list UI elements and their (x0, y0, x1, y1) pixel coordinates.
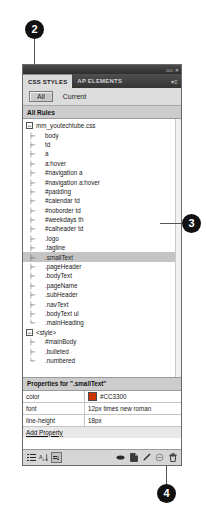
property-value[interactable]: #CC3300 (85, 392, 181, 401)
tree-branch-icon: ├─ (29, 197, 45, 204)
callout-leader-3 (160, 223, 183, 224)
property-value-text: 18px (88, 417, 102, 424)
rule-tree-item-label: .numbered (45, 357, 75, 364)
rules-tree-container[interactable]: −mm_youtechtube.css├─body├─td├─a├─a:hove… (23, 119, 181, 378)
rule-tree-item[interactable]: −<style> (23, 328, 181, 337)
tree-toggle-icon[interactable]: − (26, 122, 33, 129)
rule-tree-item-label: #noborder td (45, 207, 81, 214)
rule-tree-item-label: #weekdays th (45, 216, 84, 223)
rule-tree-item[interactable]: ├─.tagline (23, 243, 181, 252)
mode-current-button[interactable]: Current (55, 91, 94, 102)
panel-options-menu-icon[interactable]: ▾≡ (171, 74, 181, 88)
callout-marker-3: 3 (182, 214, 201, 233)
rule-tree-item-label: .pageName (45, 282, 78, 289)
rule-tree-item-label: .pageHeader (45, 263, 81, 270)
tree-branch-icon: ├─ (29, 179, 45, 186)
property-row[interactable]: color#CC3300 (23, 391, 181, 403)
delete-rule-icon[interactable] (168, 453, 177, 462)
callout-marker-4: 4 (157, 484, 176, 503)
rule-tree-item[interactable]: ├─.pageName (23, 281, 181, 290)
property-name[interactable]: line-height (23, 415, 85, 426)
panel-titlebar[interactable]: ▫▫ ✕ (23, 65, 181, 74)
property-name[interactable]: color (23, 391, 85, 402)
property-value[interactable]: 18px (85, 417, 181, 424)
tree-branch-icon: ├─ (29, 169, 45, 176)
rule-tree-item-label: .tagline (45, 244, 65, 251)
attach-style-sheet-icon[interactable] (116, 453, 125, 462)
rule-tree-item[interactable]: ├─a (23, 149, 181, 158)
tree-branch-icon: ├─ (29, 225, 45, 232)
add-property-link[interactable]: Add Property (23, 427, 181, 438)
alphabetical-view-icon[interactable]: A z (39, 453, 48, 462)
rule-tree-item[interactable]: ├─.subHeader (23, 290, 181, 299)
rule-tree-item[interactable]: ├─#noborder td (23, 206, 181, 215)
mode-all-button[interactable]: All (29, 91, 53, 102)
rule-tree-item-label: .bodyText ul (45, 310, 79, 317)
rule-tree-item-label: a:hover (45, 160, 66, 167)
category-view-icon[interactable] (27, 453, 36, 462)
rule-tree-item[interactable]: ├─#weekdays th (23, 215, 181, 224)
close-icon[interactable]: ✕ (175, 67, 179, 73)
rule-tree-item-label: .subHeader (45, 291, 78, 298)
edit-rule-icon[interactable] (142, 453, 151, 462)
rule-tree-item-label: #navigation a:hover (45, 179, 100, 186)
tab-css-styles[interactable]: CSS STYLES (23, 74, 72, 88)
property-row[interactable]: line-height18px (23, 415, 181, 427)
rule-tree-item[interactable]: ├─.logo (23, 234, 181, 243)
rule-tree-item-label: #mainBody (45, 338, 77, 345)
tree-branch-icon: ├─ (29, 160, 45, 167)
rule-tree-item[interactable]: ├─a:hover (23, 159, 181, 168)
collapse-icon[interactable]: ▫▫ (166, 67, 173, 73)
rule-tree-item-label: body (45, 132, 59, 139)
rule-tree-item-label: .bulleted (45, 348, 69, 355)
property-value[interactable]: 12px times new roman (85, 405, 181, 412)
rule-tree-item[interactable]: ├─.smallText (23, 252, 181, 261)
rule-tree-item[interactable]: ├─td (23, 140, 181, 149)
rule-tree-item[interactable]: ├─.bulleted (23, 346, 181, 355)
property-row[interactable]: font12px times new roman (23, 403, 181, 415)
disable-property-icon[interactable] (155, 453, 164, 462)
rule-tree-item[interactable]: ├─#calheader td (23, 224, 181, 233)
panel-tabstrip: CSS STYLES AP ELEMENTS ▾≡ (23, 74, 181, 88)
properties-grid: color#CC3300font12px times new romanline… (23, 391, 181, 427)
tree-branch-icon: ├─ (29, 254, 45, 261)
rule-tree-item-label: .navText (45, 301, 68, 308)
tree-toggle-icon[interactable]: − (26, 329, 33, 336)
rule-tree-item[interactable]: └─.mainHeading (23, 318, 181, 327)
color-swatch[interactable] (88, 392, 97, 401)
rule-tree-item[interactable]: ├─#navigation a:hover (23, 177, 181, 186)
properties-header: Properties for ".smallText" (23, 378, 181, 391)
tab-ap-elements[interactable]: AP ELEMENTS (72, 74, 127, 88)
rules-tree-scrollbar[interactable] (175, 119, 181, 377)
rule-tree-item-label: .smallText (45, 254, 73, 261)
rules-tree: −mm_youtechtube.css├─body├─td├─a├─a:hove… (23, 119, 181, 365)
property-name[interactable]: font (23, 403, 85, 414)
svg-text:z: z (43, 458, 45, 462)
rule-tree-item[interactable]: ├─.bodyText ul (23, 309, 181, 318)
rule-tree-item[interactable]: ├─body (23, 130, 181, 139)
tree-branch-icon: ├─ (29, 141, 45, 148)
rule-tree-item[interactable]: ├─#padding (23, 187, 181, 196)
property-value-text: #CC3300 (100, 393, 127, 400)
rule-tree-item-label: #navigation a (45, 169, 82, 176)
toolbar-actions (116, 453, 177, 462)
rule-tree-item[interactable]: ├─.bodyText (23, 271, 181, 280)
rule-tree-item[interactable]: ├─#calendar td (23, 196, 181, 205)
tree-branch-icon: └─ (29, 357, 45, 364)
rule-tree-item[interactable]: ├─#mainBody (23, 337, 181, 346)
rule-tree-item[interactable]: └─.numbered (23, 356, 181, 365)
rule-tree-item-label: a (45, 150, 49, 157)
rule-tree-item[interactable]: ├─.navText (23, 299, 181, 308)
new-css-rule-icon[interactable] (129, 453, 138, 462)
rule-tree-item[interactable]: ├─.pageHeader (23, 262, 181, 271)
rule-tree-item[interactable]: −mm_youtechtube.css (23, 121, 181, 130)
set-properties-view-icon[interactable] (51, 452, 62, 463)
tree-branch-icon: ├─ (29, 282, 45, 289)
tree-branch-icon: ├─ (29, 216, 45, 223)
tree-branch-icon: ├─ (29, 291, 45, 298)
rule-tree-item[interactable]: ├─#navigation a (23, 168, 181, 177)
rule-tree-item-label: .bodyText (45, 272, 72, 279)
rule-tree-item-label: .logo (45, 235, 59, 242)
tree-branch-icon: ├─ (29, 207, 45, 214)
tree-branch-icon: ├─ (29, 272, 45, 279)
